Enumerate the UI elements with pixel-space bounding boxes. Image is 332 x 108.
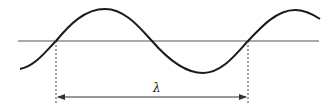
wavelength-label: λ — [153, 81, 161, 95]
wavelength-diagram — [0, 0, 332, 108]
